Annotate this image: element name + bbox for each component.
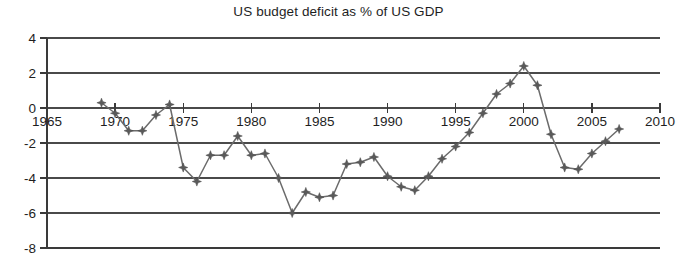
x-tick-label: 1990 [373, 114, 403, 129]
data-point-marker [219, 151, 228, 160]
data-point-marker [560, 163, 569, 172]
data-point-marker [233, 131, 242, 140]
y-tick-label: -4 [24, 171, 36, 186]
chart-container: US budget deficit as % of US GDP 420-2-4… [0, 0, 677, 266]
y-tick-label: -8 [24, 241, 36, 256]
data-point-marker [274, 173, 283, 182]
data-point-marker [315, 193, 324, 202]
y-axis-tick-labels: 420-2-4-6-8 [24, 31, 37, 256]
x-tick-label: 1995 [441, 114, 471, 129]
series-line [101, 66, 619, 213]
y-tick-label: 4 [28, 31, 36, 46]
x-tick-label: 1985 [304, 114, 334, 129]
data-point-marker [342, 159, 351, 168]
line-chart-plot: 420-2-4-6-8 1965197019751980198519901995… [0, 0, 677, 266]
data-point-marker [206, 151, 215, 160]
data-point-marker [301, 187, 310, 196]
data-point-marker [260, 149, 269, 158]
data-point-marker [247, 151, 256, 160]
data-point-marker [356, 158, 365, 167]
data-point-marker [288, 208, 297, 217]
data-series-group [97, 61, 624, 217]
data-point-marker [369, 152, 378, 161]
gridlines-group [47, 38, 660, 248]
x-tick-label: 1965 [32, 114, 62, 129]
x-tick-label: 2005 [577, 114, 607, 129]
y-tick-label: -2 [24, 136, 36, 151]
x-tick-label: 2000 [509, 114, 539, 129]
data-point-marker [478, 109, 487, 118]
data-point-marker [533, 81, 542, 90]
y-tick-label: 2 [28, 66, 36, 81]
x-tick-label: 2010 [645, 114, 675, 129]
y-tick-label: -6 [24, 206, 36, 221]
data-point-marker [546, 130, 555, 139]
data-point-marker [328, 191, 337, 200]
x-tick-label: 1980 [236, 114, 266, 129]
